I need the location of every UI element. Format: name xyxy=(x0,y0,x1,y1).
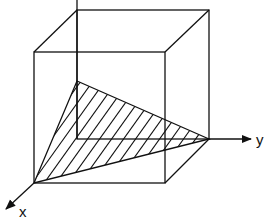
cube-diagram: y x xyxy=(0,0,269,222)
hatched-triangle xyxy=(0,60,264,200)
x-axis-label: x xyxy=(19,203,27,220)
triangle-outline xyxy=(34,81,209,183)
cube-front-face xyxy=(34,52,165,183)
cube-edge xyxy=(165,10,209,52)
cube-edge xyxy=(165,139,209,183)
y-axis-label: y xyxy=(256,131,264,148)
cube-edge xyxy=(34,10,77,52)
